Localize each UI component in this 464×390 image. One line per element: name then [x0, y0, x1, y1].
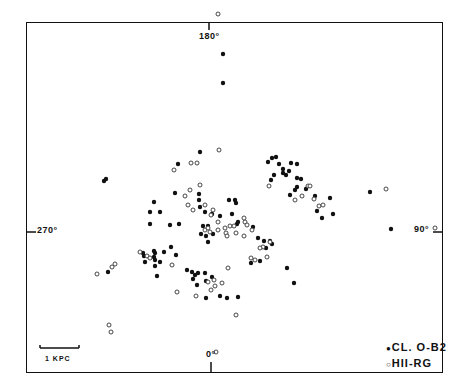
- data-point-filled: [315, 209, 319, 213]
- data-point-filled: [148, 222, 152, 226]
- data-point-open: [217, 148, 221, 152]
- data-point-open: [186, 203, 190, 207]
- data-point-open: [312, 197, 316, 201]
- data-point-open: [216, 228, 220, 232]
- data-point-filled: [218, 294, 222, 298]
- data-point-open: [242, 234, 246, 238]
- data-point-filled: [249, 261, 253, 265]
- data-point-open: [228, 224, 232, 228]
- data-point-filled: [162, 250, 166, 254]
- data-point-filled: [173, 191, 177, 195]
- data-point-open: [267, 184, 271, 188]
- data-point-filled: [174, 253, 178, 257]
- data-point-filled: [168, 223, 172, 227]
- scale-bar-label: 1 KPC: [45, 355, 71, 362]
- data-point-filled: [198, 205, 202, 209]
- data-point-filled: [230, 212, 234, 216]
- data-point-filled: [262, 239, 266, 243]
- data-point-filled: [199, 232, 203, 236]
- data-point-filled: [177, 222, 181, 226]
- data-point-open: [265, 255, 269, 259]
- data-point-filled: [281, 171, 285, 175]
- data-point-open: [183, 194, 187, 198]
- data-point-open: [300, 194, 304, 198]
- axis-label-right: 90°: [414, 224, 429, 234]
- data-point-filled: [185, 268, 189, 272]
- data-point-filled: [153, 258, 157, 262]
- axis-label-bottom: 0°: [206, 349, 216, 359]
- data-point-open: [213, 284, 217, 288]
- data-point-open: [113, 262, 117, 266]
- data-point-open: [188, 188, 192, 192]
- data-point-open: [245, 223, 249, 227]
- data-point-open: [223, 226, 227, 230]
- data-point-filled: [195, 283, 199, 287]
- data-point-filled: [295, 176, 299, 180]
- data-point-open: [242, 216, 246, 220]
- data-point-filled: [292, 281, 296, 285]
- data-point-filled: [256, 236, 260, 240]
- data-point-open: [172, 168, 176, 172]
- data-point-open: [234, 231, 238, 235]
- data-point-open: [175, 290, 179, 294]
- data-point-filled: [227, 198, 231, 202]
- data-point-open: [384, 187, 388, 191]
- data-point-filled: [197, 198, 201, 202]
- data-point-filled: [106, 270, 110, 274]
- data-point-open: [191, 208, 195, 212]
- data-point-filled: [153, 264, 157, 268]
- data-point-filled: [236, 295, 240, 299]
- data-point-open: [209, 213, 213, 217]
- data-point-filled: [204, 296, 208, 300]
- data-point-filled: [221, 52, 225, 56]
- data-point-filled: [169, 245, 173, 249]
- data-point-open: [253, 258, 257, 262]
- data-point-open: [107, 323, 111, 327]
- data-point-open: [212, 278, 216, 282]
- data-point-filled: [272, 173, 276, 177]
- data-point-filled: [203, 271, 207, 275]
- data-point-filled: [191, 277, 195, 281]
- data-point-open: [225, 234, 229, 238]
- data-point-open: [148, 256, 152, 260]
- data-point-open: [170, 263, 174, 267]
- data-point-filled: [269, 178, 273, 182]
- legend-item-cl-ob2: ●CL. O-B2: [386, 340, 447, 356]
- data-point-filled: [281, 167, 285, 171]
- data-point-open: [216, 12, 220, 16]
- data-point-open: [268, 240, 272, 244]
- data-point-filled: [203, 210, 207, 214]
- data-point-open: [258, 246, 262, 250]
- data-point-open: [249, 256, 253, 260]
- data-point-open: [220, 281, 224, 285]
- data-point-open: [208, 230, 212, 234]
- data-point-filled: [158, 210, 162, 214]
- legend-item-hii-rg: ○HII-RG: [386, 356, 447, 372]
- data-point-open: [234, 313, 238, 317]
- data-point-filled: [201, 224, 205, 228]
- data-point-filled: [331, 212, 335, 216]
- data-point-filled: [289, 161, 293, 165]
- data-point-filled: [206, 240, 210, 244]
- data-point-open: [189, 161, 193, 165]
- data-point-filled: [287, 169, 291, 173]
- data-point-filled: [148, 210, 152, 214]
- data-point-open: [209, 288, 213, 292]
- data-point-filled: [152, 200, 156, 204]
- data-point-open: [293, 198, 297, 202]
- axis-label-left: 270°: [37, 225, 58, 235]
- data-point-open: [95, 272, 99, 276]
- data-point-filled: [285, 266, 289, 270]
- data-point-open: [194, 294, 198, 298]
- data-point-open: [138, 250, 142, 254]
- data-point-filled: [155, 274, 159, 278]
- data-point-filled: [104, 177, 108, 181]
- data-point-filled: [143, 260, 147, 264]
- data-point-filled: [368, 190, 372, 194]
- data-point-filled: [225, 296, 229, 300]
- data-point-filled: [234, 201, 238, 205]
- data-point-filled: [288, 193, 292, 197]
- data-point-filled: [236, 220, 240, 224]
- data-point-filled: [266, 160, 270, 164]
- data-point-filled: [196, 271, 200, 275]
